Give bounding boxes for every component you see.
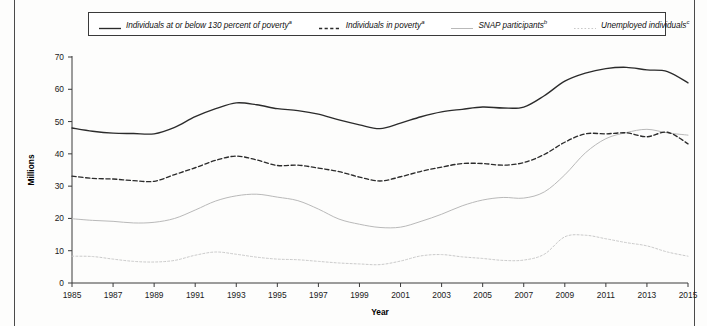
chart-axes — [68, 56, 688, 287]
y-tick-label: 10 — [55, 246, 65, 256]
line-chart: 0102030405060701985198719891991199319951… — [0, 0, 707, 326]
x-tick-label: 1997 — [309, 290, 328, 300]
x-tick-label: 1987 — [104, 290, 123, 300]
x-tick-label: 2015 — [679, 290, 698, 300]
x-tick-label: 2003 — [432, 290, 451, 300]
x-tick-label: 1999 — [350, 290, 369, 300]
series-line-dashed-dark — [72, 132, 688, 182]
y-tick-label: 30 — [55, 181, 65, 191]
x-tick-label: 2007 — [514, 290, 533, 300]
x-tick-label: 2011 — [597, 290, 615, 300]
x-tick-label: 2001 — [391, 290, 410, 300]
y-tick-label: 60 — [55, 84, 65, 94]
figure-page: Individuals at or below 130 percent of p… — [0, 0, 707, 326]
series-line-solid-dark — [72, 67, 688, 134]
x-tick-label: 1993 — [227, 290, 246, 300]
x-tick-label: 2009 — [555, 290, 574, 300]
x-tick-label: 2005 — [473, 290, 492, 300]
x-tick-label: 1989 — [145, 290, 164, 300]
x-tick-label: 1995 — [268, 290, 287, 300]
y-tick-label: 50 — [55, 117, 65, 127]
series-line-dotted-light — [72, 235, 688, 265]
y-tick-label: 0 — [59, 278, 64, 288]
x-axis-title: Year — [371, 307, 389, 317]
chart-series-layer — [72, 67, 688, 264]
chart-axis-labels: 0102030405060701985198719891991199319951… — [26, 52, 698, 317]
x-tick-label: 1985 — [63, 290, 82, 300]
x-tick-label: 1991 — [186, 290, 205, 300]
y-tick-label: 40 — [55, 149, 65, 159]
y-tick-label: 70 — [55, 52, 65, 62]
y-tick-label: 20 — [55, 213, 65, 223]
x-tick-label: 2013 — [638, 290, 657, 300]
y-axis-title: Millions — [26, 154, 36, 186]
